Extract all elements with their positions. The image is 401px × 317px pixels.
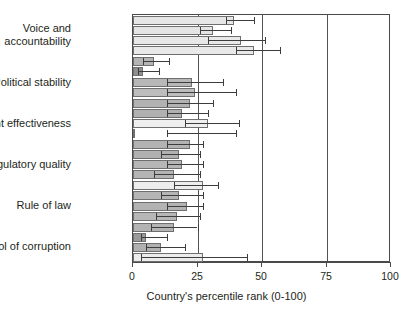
category-label-rule-of-law: Rule of law: [0, 199, 71, 212]
bar-group-4-row-2: [133, 150, 389, 159]
error-bar-cap-lower: [167, 203, 168, 210]
error-bar-cap-lower: [141, 254, 142, 261]
error-bar-line: [141, 237, 167, 238]
bar-group-1-row-2: [133, 26, 389, 35]
error-bar-line: [236, 50, 280, 51]
error-bar-cap-upper: [236, 89, 237, 96]
error-bar-line: [167, 133, 237, 134]
error-bar-line: [167, 103, 213, 104]
bar-group-3-row-1: [133, 99, 389, 108]
error-bar-cap-lower: [167, 130, 168, 137]
error-bar-cap-upper: [280, 47, 281, 54]
error-bar-line: [151, 227, 197, 228]
category-label-political-stability: Political stability: [0, 76, 71, 89]
bar-group-5-row-2: [133, 191, 389, 200]
x-tick-label-25: 25: [177, 270, 217, 282]
error-bar-cap-lower: [146, 244, 147, 251]
error-bar-cap-upper: [231, 27, 232, 34]
error-bar-cap-lower: [167, 89, 168, 96]
error-bar-cap-lower: [161, 192, 162, 199]
error-bar-line: [156, 216, 200, 217]
error-bar-cap-lower: [167, 161, 168, 168]
bar-group-5-row-1: [133, 181, 389, 190]
error-bar-cap-upper: [218, 182, 219, 189]
error-bar-line: [154, 174, 200, 175]
error-bar-cap-lower: [167, 110, 168, 117]
x-tick-label-100: 100: [370, 270, 401, 282]
bar-group-4-row-3: [133, 160, 389, 169]
bar-group-5-row-3: [133, 202, 389, 211]
x-tick-100: [390, 262, 391, 267]
x-tick-50: [261, 262, 262, 267]
error-bar-cap-lower: [226, 17, 227, 24]
bar-group-6-row-2: [133, 233, 389, 242]
bar-group-6-row-4: [133, 253, 389, 262]
error-bar-cap-upper: [169, 58, 170, 65]
error-bar-cap-lower: [138, 68, 139, 75]
error-bar-line: [146, 247, 185, 248]
error-bar-cap-lower: [154, 171, 155, 178]
bar: [133, 16, 234, 25]
x-tick-25: [197, 262, 198, 267]
bar-group-1-row-4: [133, 46, 389, 55]
error-bar-cap-upper: [254, 17, 255, 24]
error-bar-line: [208, 40, 265, 41]
error-bar-cap-upper: [208, 110, 209, 117]
error-bar-cap-upper: [200, 171, 201, 178]
bar: [133, 129, 135, 138]
error-bar-line: [138, 71, 159, 72]
category-label-government-effectiveness: Government effectiveness: [0, 117, 71, 130]
category-label-line-1: Voice and: [0, 22, 71, 35]
error-bar-cap-lower: [143, 58, 144, 65]
bar-group-6-row-1: [133, 223, 389, 232]
error-bar-line: [141, 257, 247, 258]
plot-area: [132, 14, 390, 262]
error-bar-cap-lower: [174, 182, 175, 189]
category-label-line-2: accountability: [0, 35, 71, 48]
error-bar-cap-upper: [223, 79, 224, 86]
error-bar-cap-upper: [203, 203, 204, 210]
error-bar-cap-upper: [203, 141, 204, 148]
error-bar-cap-upper: [159, 68, 160, 75]
error-bar-cap-upper: [203, 161, 204, 168]
category-label-control-of-corruption: Control of corruption: [0, 240, 71, 253]
error-bar-cap-lower: [167, 79, 168, 86]
error-bar-line: [167, 144, 203, 145]
error-bar-cap-lower: [161, 151, 162, 158]
error-bar-cap-upper: [185, 244, 186, 251]
error-bar-cap-upper: [200, 213, 201, 220]
error-bar-cap-upper: [203, 192, 204, 199]
category-label-regulatory-quality: Regulatory quality: [0, 158, 71, 171]
bar-group-4-row-4: [133, 170, 389, 179]
x-tick-0: [132, 262, 133, 267]
error-bar-line: [200, 30, 231, 31]
chart-container: Voice and accountability Political stabi…: [0, 0, 401, 317]
error-bar-line: [161, 154, 200, 155]
category-label-voice-and-accountability: Voice and accountability: [0, 22, 71, 47]
error-bar-cap-upper: [239, 120, 240, 127]
x-tick-label-75: 75: [306, 270, 346, 282]
error-bar-line: [167, 92, 237, 93]
bar-group-3-row-2: [133, 109, 389, 118]
bar-group-2-row-4: [133, 88, 389, 97]
error-bar-cap-lower: [156, 213, 157, 220]
error-bar-line: [167, 206, 203, 207]
error-bar-line: [174, 185, 218, 186]
bar-group-5-row-4: [133, 212, 389, 221]
error-bar-cap-upper: [247, 254, 248, 261]
error-bar-line: [226, 20, 254, 21]
bar-group-2-row-3: [133, 78, 389, 87]
bar-group-2-row-1: [133, 57, 389, 66]
error-bar-cap-upper: [213, 100, 214, 107]
error-bar-cap-lower: [200, 27, 201, 34]
error-bar-cap-lower: [167, 141, 168, 148]
x-axis-title: Country's percentile rank (0-100): [0, 290, 401, 302]
x-tick-label-50: 50: [241, 270, 281, 282]
x-tick-label-0: 0: [112, 270, 152, 282]
error-bar-cap-lower: [236, 47, 237, 54]
x-tick-75: [326, 262, 327, 267]
error-bar-cap-lower: [185, 120, 186, 127]
error-bar-line: [167, 82, 224, 83]
error-bar-cap-upper: [265, 37, 266, 44]
error-bar-cap-lower: [208, 37, 209, 44]
